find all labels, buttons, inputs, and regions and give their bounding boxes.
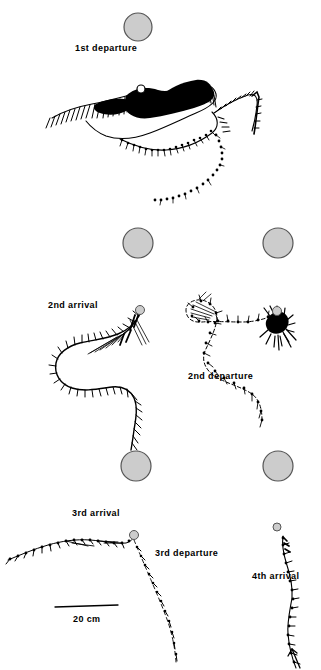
scale-bar-label: 20 cm xyxy=(73,614,101,624)
label-second-arrival: 2nd arrival xyxy=(48,300,98,310)
panel-3-third-arrival-trajectory xyxy=(6,538,133,564)
panel-1-trajectories xyxy=(46,80,262,205)
scale-bar xyxy=(55,605,118,607)
landmark-panel3-right xyxy=(263,451,293,481)
nest-marker-3rd xyxy=(130,531,139,540)
panel-3-third-departure-trajectory xyxy=(134,540,177,662)
panel-2-left-trajectory xyxy=(49,311,149,450)
landmark-panel1 xyxy=(124,13,152,41)
trajectory-figure: 1st departure 2nd arrival 2nd departure … xyxy=(0,0,321,670)
nest-marker-2nd-departure xyxy=(273,307,282,316)
panel-3-fourth-arrival-trajectory xyxy=(282,536,300,668)
nest-marker-2nd-arrival xyxy=(136,306,145,315)
label-fourth-arrival: 4th arrival xyxy=(252,571,299,581)
landmark-panel2-left xyxy=(123,228,153,258)
label-second-departure: 2nd departure xyxy=(188,371,253,381)
label-third-departure: 3rd departure xyxy=(155,548,218,558)
nest-marker-4th xyxy=(273,523,281,531)
landmark-panel2-right xyxy=(263,228,293,258)
landmark-panel3-left xyxy=(121,451,151,481)
label-third-arrival: 3rd arrival xyxy=(72,508,120,518)
nest-marker-group xyxy=(130,306,282,540)
trajectory-canvas xyxy=(0,0,321,670)
label-first-departure: 1st departure xyxy=(75,43,137,53)
